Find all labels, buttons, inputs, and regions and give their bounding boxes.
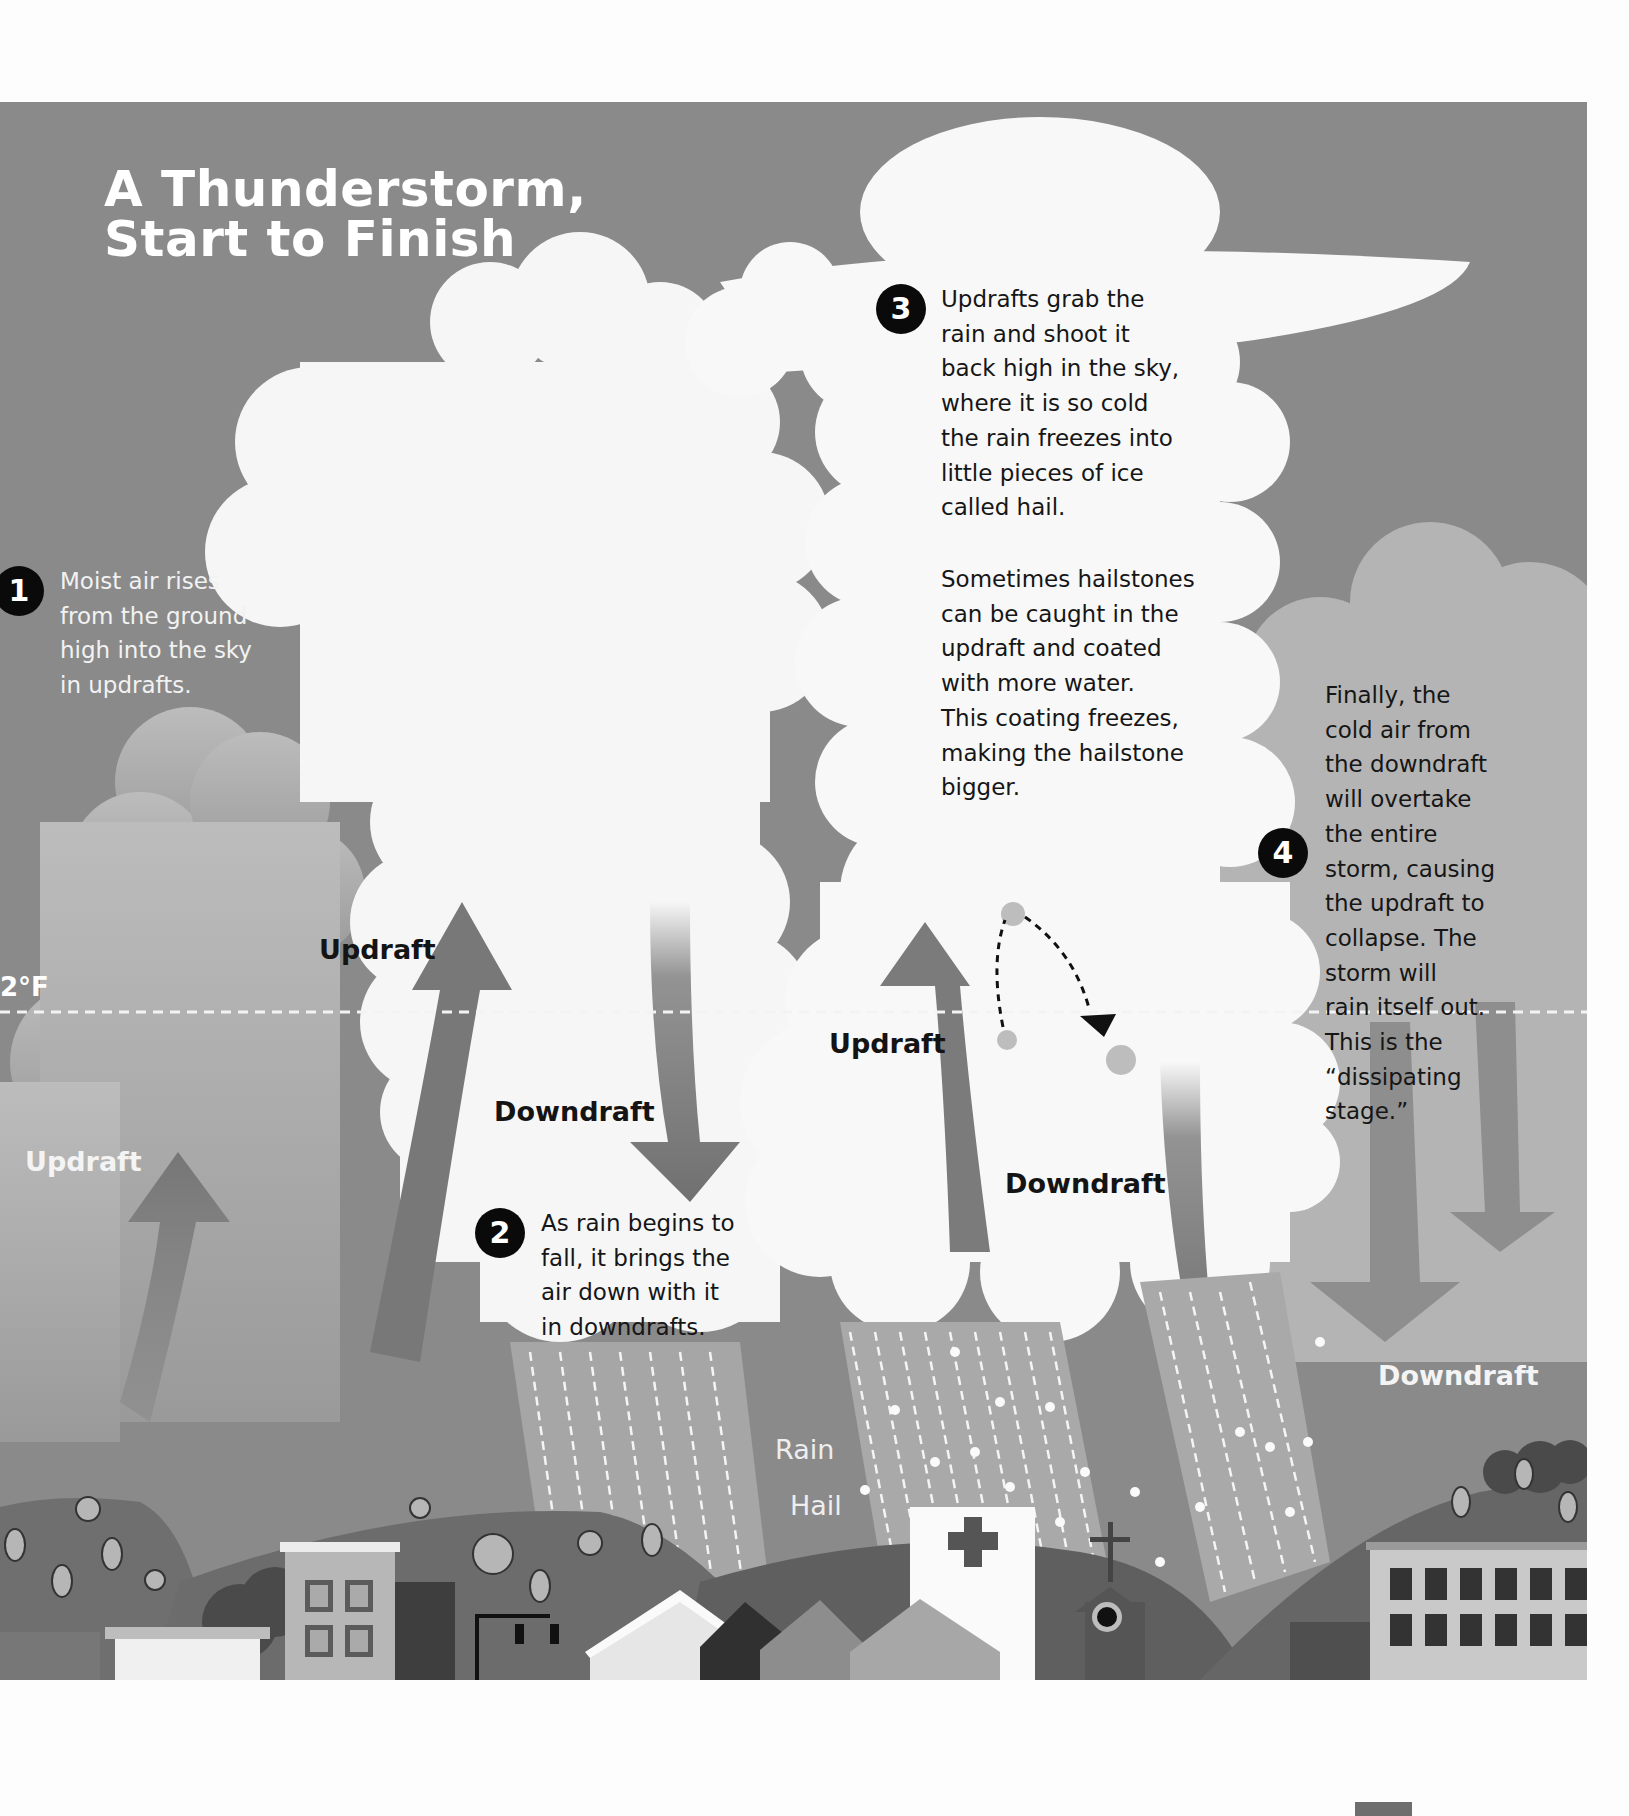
downdraft-label-stage3: Downdraft bbox=[1005, 1168, 1166, 1199]
step-2-text: As rain begins to fall, it brings the ai… bbox=[541, 1206, 735, 1345]
step-4-badge: 4 bbox=[1258, 828, 1308, 878]
freezing-temp-label: 2°F bbox=[0, 972, 49, 1002]
step-2-badge: 2 bbox=[475, 1208, 525, 1258]
hail-label: Hail bbox=[790, 1490, 842, 1521]
step-1-text: Moist air rises from the ground high int… bbox=[60, 564, 252, 703]
step-3-extra-text: Sometimes hailstones can be caught in th… bbox=[941, 562, 1195, 805]
title-line-1: A Thunderstorm, bbox=[104, 164, 587, 214]
updraft-label-stage2: Updraft bbox=[319, 934, 436, 965]
step-4-text: Finally, the cold air from the downdraft… bbox=[1325, 678, 1495, 1129]
diagram-title: A Thunderstorm, Start to Finish bbox=[104, 164, 587, 264]
stage1-cloud bbox=[0, 707, 365, 1442]
updraft-label-stage3: Updraft bbox=[829, 1028, 946, 1059]
thunderstorm-diagram: A Thunderstorm, Start to Finish 2°F 1 Mo… bbox=[0, 102, 1587, 1680]
downdraft-label-stage4: Downdraft bbox=[1378, 1360, 1539, 1391]
downdraft-label-stage2: Downdraft bbox=[494, 1096, 655, 1127]
rain-label: Rain bbox=[775, 1434, 834, 1465]
title-line-2: Start to Finish bbox=[104, 214, 587, 264]
step-3-badge: 3 bbox=[876, 284, 926, 334]
step-3-text: Updrafts grab the rain and shoot it back… bbox=[941, 282, 1179, 525]
updraft-label-stage1: Updraft bbox=[25, 1146, 142, 1177]
page-corner-mark bbox=[1355, 1802, 1412, 1816]
